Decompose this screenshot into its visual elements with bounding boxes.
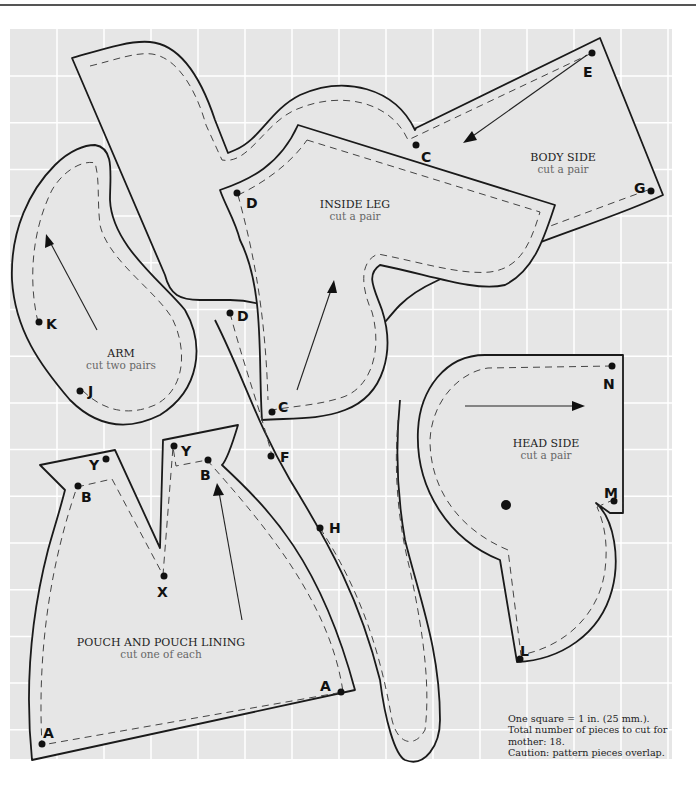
label-J: J	[87, 383, 93, 399]
point-G-dot	[648, 188, 655, 195]
label-K: K	[46, 316, 58, 332]
pattern-notes: One square = 1 in. (25 mm.). Total numbe…	[508, 713, 673, 758]
label-C: C	[278, 399, 288, 415]
point-C-dot	[413, 142, 420, 149]
point-J-dot	[77, 388, 84, 395]
label-H: H	[329, 520, 341, 536]
body-side-instruction: cut a pair	[537, 163, 589, 175]
point-C-dot	[269, 409, 276, 416]
label-N: N	[603, 376, 615, 392]
label-A: A	[320, 678, 331, 694]
scale-note: One square = 1 in. (25 mm.).	[508, 713, 673, 724]
inside-leg-instruction: cut a pair	[329, 210, 381, 222]
point-H-dot	[317, 525, 324, 532]
label-M: M	[604, 485, 618, 501]
point-A-dot	[338, 689, 345, 696]
label-A: A	[43, 725, 54, 741]
point-A-dot	[39, 741, 46, 748]
pouch-instruction: cut one of each	[120, 648, 202, 660]
eye-position-dot	[501, 500, 511, 510]
pieces-count-note: Total number of pieces to cut for	[508, 724, 673, 735]
point-K-dot	[36, 319, 43, 326]
point-E-dot	[589, 50, 596, 57]
point-F-dot	[268, 453, 275, 460]
label-X: X	[157, 584, 168, 600]
point-Y-dot	[103, 456, 110, 463]
point-N-dot	[609, 363, 616, 370]
point-B-dot	[205, 457, 212, 464]
label-Y: Y	[88, 457, 100, 473]
point-X-dot	[161, 573, 168, 580]
label-E: E	[583, 64, 593, 80]
label-F: F	[280, 449, 290, 465]
head-side-instruction: cut a pair	[520, 449, 572, 461]
point-Y-dot	[171, 443, 178, 450]
arm-instruction: cut two pairs	[86, 359, 156, 371]
point-D-dot	[234, 190, 241, 197]
label-L: L	[520, 643, 529, 659]
label-Y: Y	[180, 443, 192, 459]
label-B: B	[81, 489, 92, 505]
label-D: D	[246, 195, 258, 211]
label-G: G	[634, 180, 646, 196]
caution-note: Caution: pattern pieces overlap.	[508, 747, 673, 758]
label-D: D	[237, 308, 249, 324]
point-D-dot	[227, 310, 234, 317]
label-B: B	[200, 467, 211, 483]
pieces-count-note-cont: mother: 18.	[508, 736, 673, 747]
label-C: C	[421, 149, 431, 165]
pattern-sheet: E C G D D C K J N M L Y B Y B X F H A A …	[0, 0, 696, 785]
